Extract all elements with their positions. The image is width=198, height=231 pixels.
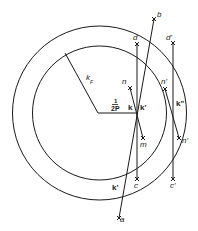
label-k-prime-lower: k' bbox=[112, 183, 118, 192]
label-b: b bbox=[157, 10, 162, 19]
label-n-double: n' bbox=[182, 136, 188, 145]
label-half-num: 1 bbox=[114, 98, 118, 104]
label-a: a bbox=[120, 215, 125, 224]
scattering-diagram: k F 1 2P k k' k" k' n n' n' m d d' b c c… bbox=[0, 0, 198, 231]
label-n: n bbox=[122, 77, 127, 86]
label-c: c bbox=[134, 181, 138, 190]
label-k-double-prime: k" bbox=[176, 99, 184, 108]
label-c-prime: c' bbox=[170, 181, 176, 190]
label-kf-sub: F bbox=[90, 79, 94, 85]
label-2p: 2P bbox=[111, 105, 120, 112]
label-n-prime: n' bbox=[161, 77, 167, 86]
label-d: d bbox=[133, 33, 138, 42]
label-m: m bbox=[140, 140, 147, 149]
line-nprime-ndouble bbox=[165, 89, 179, 138]
label-k: k bbox=[128, 103, 133, 112]
label-k-prime: k' bbox=[140, 103, 146, 112]
label-d-prime: d' bbox=[166, 33, 172, 42]
